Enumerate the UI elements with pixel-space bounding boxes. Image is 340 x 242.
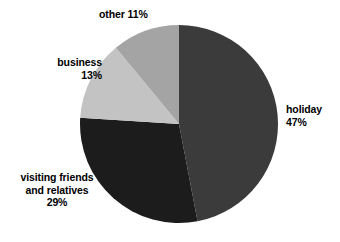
pie-label-other: other 11% — [99, 8, 148, 21]
pie-label-business-name: business — [0, 56, 102, 69]
pie-label-holiday-name: holiday — [286, 103, 322, 116]
pie-label-holiday-value: 47% — [286, 116, 322, 129]
pie-label-visiting-value: 29% — [0, 196, 114, 209]
pie-label-visiting-name-line1: visiting friends — [0, 171, 114, 184]
pie-slice-holiday[interactable] — [179, 25, 278, 221]
pie-label-holiday: holiday 47% — [286, 103, 322, 128]
pie-label-other-name-value: other 11% — [99, 8, 148, 21]
pie-chart: holiday 47% other 11% business 13% visit… — [0, 0, 340, 242]
pie-label-visiting-friends-and-relatives: visiting friends and relatives 29% — [0, 171, 114, 209]
pie-label-business-value: 13% — [0, 69, 102, 82]
pie-label-business: business 13% — [0, 56, 102, 81]
pie-label-visiting-name-line2: and relatives — [0, 184, 114, 197]
